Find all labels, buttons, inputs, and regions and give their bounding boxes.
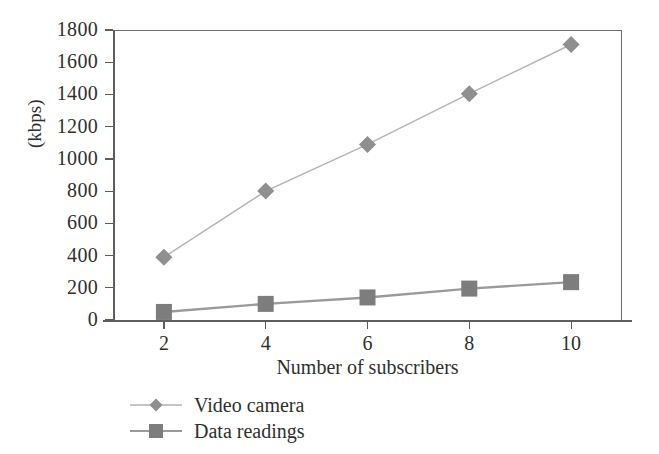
x-axis-tick-label: 4 bbox=[236, 332, 296, 354]
y-axis-tick bbox=[105, 62, 113, 63]
y-axis-tick-label: 600 bbox=[67, 212, 98, 232]
y-axis-tick bbox=[105, 191, 113, 192]
y-axis-tick-label: 400 bbox=[67, 245, 98, 265]
x-axis-tick-label: 6 bbox=[338, 332, 398, 354]
y-axis-tick bbox=[105, 255, 113, 256]
legend-label-data-readings: Data readings bbox=[194, 419, 305, 443]
y-axis-tick bbox=[105, 287, 113, 288]
y-axis-tick bbox=[105, 94, 113, 95]
legend-item-video-camera: Video camera bbox=[128, 392, 305, 418]
y-axis-tick bbox=[105, 319, 113, 320]
x-axis-tick-label: 10 bbox=[541, 332, 601, 354]
y-axis-tick bbox=[105, 29, 113, 30]
y-axis-tick-label: 800 bbox=[67, 180, 98, 200]
y-axis-tick-label: 200 bbox=[67, 277, 98, 297]
chart-legend: Video camera Data readings bbox=[128, 392, 305, 444]
y-axis-tick bbox=[105, 223, 113, 224]
y-axis-tick-label: 1200 bbox=[57, 116, 98, 136]
y-axis-tick-label: 1600 bbox=[57, 51, 98, 71]
y-axis-tick bbox=[105, 158, 113, 159]
y-axis-title: (kbps) bbox=[24, 99, 46, 148]
legend-label-video-camera: Video camera bbox=[194, 393, 304, 417]
x-axis-tick bbox=[469, 321, 470, 329]
diamond-marker-icon bbox=[128, 393, 184, 417]
x-axis-tick-label: 2 bbox=[134, 332, 194, 354]
x-axis-tick bbox=[265, 321, 266, 329]
y-axis-tick-label: 0 bbox=[88, 309, 98, 329]
chart-figure: 020040060080010001200140016001800 246810… bbox=[0, 0, 659, 454]
x-axis-title: Number of subscribers bbox=[113, 356, 622, 379]
y-axis-tick bbox=[105, 126, 113, 127]
plot-area bbox=[113, 30, 622, 320]
x-axis-tick bbox=[571, 321, 572, 329]
y-axis-tick-label: 1800 bbox=[57, 19, 98, 39]
x-axis-tick bbox=[367, 321, 368, 329]
y-axis-line bbox=[113, 30, 115, 321]
y-axis-tick-label: 1000 bbox=[57, 148, 98, 168]
x-axis-tick bbox=[163, 321, 164, 329]
square-marker-icon bbox=[128, 419, 184, 443]
x-axis-tick-label: 8 bbox=[439, 332, 499, 354]
legend-item-data-readings: Data readings bbox=[128, 418, 305, 444]
y-axis-tick-label: 1400 bbox=[57, 83, 98, 103]
